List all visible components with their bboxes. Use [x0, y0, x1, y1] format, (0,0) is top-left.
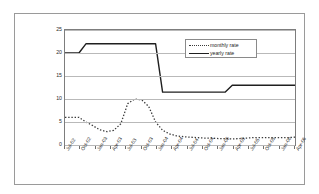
y-axis-tick-label: 10	[48, 96, 62, 101]
series-layer	[65, 30, 295, 145]
legend-label-monthly-rate: monthly rate	[210, 42, 239, 48]
x-axis-tick-labels: Jul-02Oct-02Jan-03Apr-03Jul-03Oct-03Jan-…	[64, 149, 296, 183]
y-axis-tick-label: 25	[48, 27, 62, 32]
chart-legend: monthly rate yearly rate	[185, 39, 257, 58]
legend-item-monthly-rate: monthly rate	[188, 41, 254, 49]
chart-figure: 0510152025 Jul-02Oct-02Jan-03Apr-03Jul-0…	[0, 0, 319, 194]
series-line-yearly-rate	[65, 44, 295, 92]
gridline	[65, 30, 295, 31]
gridline	[65, 99, 295, 100]
y-axis-tick-label: 20	[48, 50, 62, 55]
y-axis-tick-label: 5	[48, 119, 62, 124]
plot-area	[64, 29, 296, 146]
gridline	[65, 53, 295, 54]
series-line-monthly-rate	[65, 99, 295, 139]
gridline	[65, 76, 295, 77]
legend-label-yearly-rate: yearly rate	[210, 50, 234, 56]
y-axis-tick-label: 15	[48, 73, 62, 78]
gridline	[65, 122, 295, 123]
dotted-line-swatch-icon	[188, 42, 210, 48]
legend-item-yearly-rate: yearly rate	[188, 49, 254, 57]
y-axis-tick-labels: 0510152025	[46, 29, 62, 146]
y-axis-tick-label: 0	[48, 142, 62, 147]
solid-line-swatch-icon	[188, 50, 210, 56]
